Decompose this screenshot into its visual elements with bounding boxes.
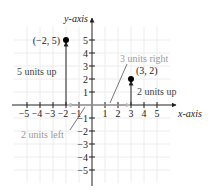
y-tick-label: −4 bbox=[77, 152, 88, 163]
annotation-two-left: 2 units left bbox=[21, 129, 64, 140]
x-tick-label: −2 bbox=[58, 108, 69, 119]
y-tick-label: 5 bbox=[83, 35, 88, 46]
y-tick-label: −2 bbox=[77, 126, 88, 137]
point-3-2 bbox=[128, 76, 134, 82]
x-tick-label: −4 bbox=[32, 108, 43, 119]
point-label: (−2, 5) bbox=[33, 35, 60, 47]
annotation-three-right: 3 units right bbox=[120, 53, 169, 64]
point-neg2-5 bbox=[63, 37, 69, 43]
x-tick-label: −3 bbox=[45, 108, 56, 119]
x-tick-label: 5 bbox=[155, 108, 160, 119]
x-axis-label: x-axis bbox=[177, 108, 202, 119]
y-tick-label: −5 bbox=[77, 165, 88, 176]
y-axis-label: y-axis bbox=[63, 13, 88, 24]
point-label: (3, 2) bbox=[136, 65, 158, 77]
y-tick-label: −3 bbox=[77, 139, 88, 150]
y-tick-label: 3 bbox=[83, 61, 88, 72]
x-tick-label: 4 bbox=[142, 108, 147, 119]
y-tick-label: 1 bbox=[83, 87, 88, 98]
coordinate-plane-diagram: −5 −4 −3 −2 −1 1 2 3 4 5 5 4 3 2 1 −1 −2… bbox=[0, 0, 212, 193]
x-tick-label: −5 bbox=[19, 108, 30, 119]
x-tick-label: 2 bbox=[116, 108, 121, 119]
y-tick-label: 4 bbox=[83, 48, 88, 59]
y-tick-label: 2 bbox=[83, 74, 88, 85]
y-tick-label: −1 bbox=[77, 113, 88, 124]
x-tick-label: 3 bbox=[129, 108, 134, 119]
annotation-two-up: 2 units up bbox=[137, 86, 176, 97]
annotation-five-up: 5 units up bbox=[17, 66, 56, 77]
x-tick-label: 1 bbox=[103, 108, 108, 119]
